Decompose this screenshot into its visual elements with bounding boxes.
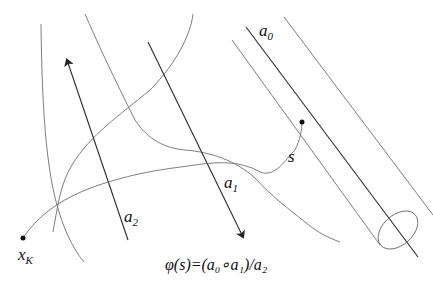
curve-left-vertical [41, 24, 84, 262]
label-xK: xK [17, 245, 34, 266]
cylinder-left-edge [232, 40, 380, 245]
cylinder-right-edge [284, 17, 433, 215]
point-xK [21, 236, 26, 241]
arrow-a1 [148, 42, 243, 237]
label-a0: a0 [259, 21, 274, 42]
label-s: s [288, 147, 295, 166]
curve-top-right-sweep [53, 14, 193, 232]
label-a1: a1 [224, 173, 238, 194]
diagram-canvas: a0 a1 a2 s xK φ(s)=(a₀∘a₁)/a₂ [0, 0, 433, 291]
formula-phi: φ(s)=(a₀∘a₁)/a₂ [165, 256, 268, 274]
point-s-end [300, 120, 305, 125]
label-a2: a2 [124, 207, 139, 228]
axis-a0 [246, 27, 418, 257]
